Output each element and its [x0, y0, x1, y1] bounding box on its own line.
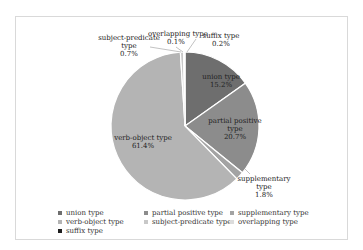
legend-swatch [144, 211, 148, 215]
legend-swatch [58, 220, 62, 224]
legend-item-partial-positive[interactable]: partial positive type [144, 209, 223, 217]
label-overlapping: overlapping type 0.1% [148, 30, 204, 46]
label-union: union type 15.2% [196, 73, 246, 89]
legend-item-union[interactable]: union type [58, 209, 104, 217]
label-partial-positive: partial positive type 20.7% [205, 117, 265, 141]
legend-swatch [230, 220, 234, 224]
label-supplementary: supplementary type 1.8% [236, 175, 292, 199]
leader-line [244, 168, 250, 174]
legend-item-subject-predicate[interactable]: subject-predicate type [144, 218, 231, 226]
label-suffix: suffix type 0.2% [200, 32, 242, 48]
legend-swatch [58, 211, 62, 215]
legend-item-suffix[interactable]: suffix type [58, 227, 103, 235]
label-verb-object: verb-object type 61.4% [108, 134, 178, 150]
legend-item-supplementary[interactable]: supplementary type [230, 209, 309, 217]
legend-item-overlapping[interactable]: overlapping type [230, 218, 298, 226]
legend-item-verb-object[interactable]: verb-object type [58, 218, 124, 226]
legend-swatch [58, 229, 62, 233]
legend-swatch [230, 211, 234, 215]
legend-swatch [144, 220, 148, 224]
